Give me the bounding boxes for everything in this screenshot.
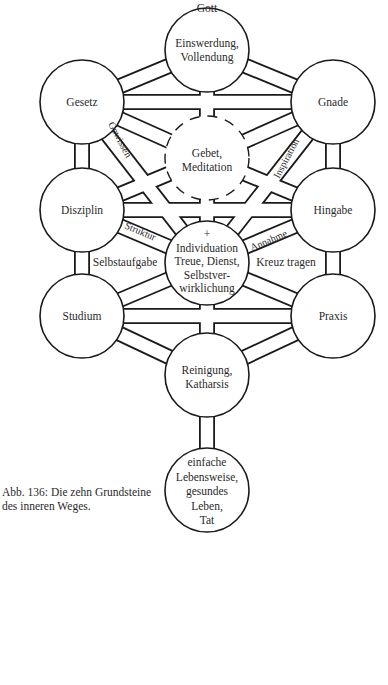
label-line: Individuation [163, 242, 251, 256]
path-label-kreuz-tragen: Kreuz tragen [248, 255, 324, 269]
node-base-label: einfache Lebensweise, gesundes Leben, Ta… [165, 455, 249, 528]
label-line: Gebet, [165, 146, 249, 160]
label-line: Gnade [291, 95, 375, 109]
label-line: Meditation [165, 160, 249, 174]
node-reinigung-label: Reinigung, Katharsis [165, 363, 249, 391]
node-hingabe-label: Hingabe [291, 203, 375, 217]
node-gnade-label: Gnade [291, 95, 375, 109]
label-line: einfache [165, 455, 249, 470]
label-line: Hingabe [291, 203, 375, 217]
label-line: gesundes [165, 484, 249, 499]
plus-symbol: + [163, 228, 251, 242]
caption-line: Abb. 136: Die zehn Grundsteine [2, 485, 151, 499]
label-line: wirklichung [163, 282, 251, 296]
node-gesetz-label: Gesetz [40, 95, 124, 109]
figure-caption: Abb. 136: Die zehn Grundsteine des inner… [2, 485, 151, 513]
node-praxis-label: Praxis [291, 309, 375, 323]
label-line: Treue, Dienst, [163, 255, 251, 269]
label-line: Gesetz [40, 95, 124, 109]
label-line: Lebensweise, [165, 470, 249, 485]
caption-line: des inneren Weges. [2, 499, 151, 513]
node-studium-label: Studium [40, 309, 124, 323]
label-line: Einswerdung, [165, 36, 249, 50]
label-line: Praxis [291, 309, 375, 323]
node-gebet-label: Gebet, Meditation [165, 146, 249, 174]
label-gott: Gott [177, 1, 237, 15]
label-line: Selbstver- [163, 269, 251, 283]
label-line: Katharsis [165, 377, 249, 391]
label-line: Disziplin [40, 203, 124, 217]
label-line: Reinigung, [165, 363, 249, 377]
node-disziplin-label: Disziplin [40, 203, 124, 217]
node-individuation-label: + Individuation Treue, Dienst, Selbstver… [163, 228, 251, 296]
label-line: Tat [165, 513, 249, 528]
label-line: Studium [40, 309, 124, 323]
node-einswerdung-label: Einswerdung, Vollendung [165, 36, 249, 64]
label-line: Vollendung [165, 50, 249, 64]
label-line: Leben, [165, 499, 249, 514]
path-label-selbstaufgabe: Selbstaufgabe [85, 255, 165, 269]
